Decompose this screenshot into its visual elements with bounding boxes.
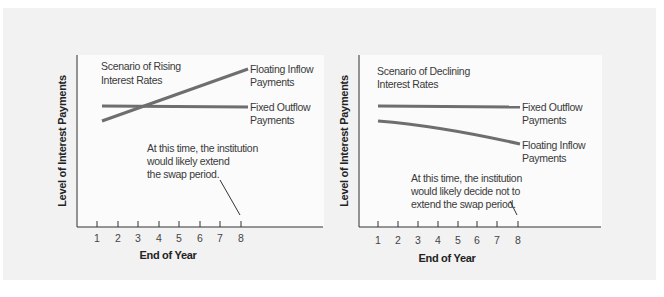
right-fixed-label: Fixed Outflow [522,101,583,113]
left-fixed-label-2: Payments [250,114,294,126]
right-annotation-1: At this time, the institution [411,172,522,184]
svg-text:5: 5 [455,234,461,246]
svg-text:3: 3 [415,234,421,246]
chart-canvas: 1 2 3 4 5 6 7 8 End of Year Level of Int… [0,0,664,297]
left-fixed-label: Fixed Outflow [250,101,311,113]
right-annotation-2: would likely decide not to [410,185,520,197]
left-annotation-1: At this time, the institution [147,142,258,154]
right-chart: 1 2 3 4 5 6 7 8 End of Year Level of Int… [338,55,601,264]
left-x-axis-label: End of Year [139,249,197,261]
left-scenario-title-2: Interest Rates [101,74,162,86]
svg-text:4: 4 [156,232,162,244]
left-annotation-2: would likely extend [146,155,230,167]
right-fixed-label-2: Payments [522,114,566,126]
right-floating-inflow-line [378,121,520,144]
left-x-ticks [97,221,241,227]
svg-text:8: 8 [238,232,244,244]
right-floating-label-2: Payments [522,152,566,164]
right-y-axis-label: Level of Interest Payments [338,75,350,207]
svg-text:8: 8 [515,234,521,246]
right-annotation-3: extend the swap period. [411,198,516,210]
svg-text:3: 3 [135,232,141,244]
right-x-axis-label: End of Year [418,252,476,264]
svg-text:4: 4 [435,234,441,246]
svg-text:6: 6 [474,234,480,246]
right-floating-label: Floating Inflow [522,139,586,151]
left-chart: 1 2 3 4 5 6 7 8 End of Year Level of Int… [56,55,323,261]
left-annotation-3: the swap period. [147,168,219,180]
left-annotation-pointer [220,180,240,215]
left-floating-label-2: Payments [250,76,294,88]
left-x-tick-labels: 1 2 3 4 5 6 7 8 [94,232,244,244]
left-scenario-title: Scenario of Rising [101,60,181,72]
svg-text:5: 5 [176,232,182,244]
svg-text:6: 6 [197,232,203,244]
right-fixed-outflow-line [378,106,520,107]
svg-text:2: 2 [395,234,401,246]
right-x-ticks [378,221,518,227]
svg-text:2: 2 [115,232,121,244]
right-scenario-title-2: Interest Rates [377,78,438,90]
svg-text:7: 7 [494,234,500,246]
svg-text:1: 1 [375,234,381,246]
left-y-axis-label: Level of Interest Payments [56,75,68,207]
left-floating-label: Floating Inflow [250,63,314,75]
right-x-tick-labels: 1 2 3 4 5 6 7 8 [375,234,521,246]
right-scenario-title: Scenario of Declining [377,65,470,77]
left-fixed-outflow-line [102,106,248,107]
svg-text:1: 1 [94,232,100,244]
svg-text:7: 7 [217,232,223,244]
